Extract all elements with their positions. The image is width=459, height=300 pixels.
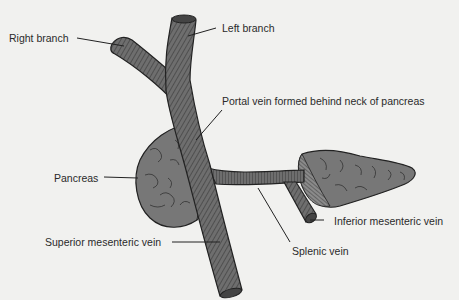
portal-vein-diagram: Right branch Left branch Portal vein for… [0,0,459,300]
label-right-branch: Right branch [9,32,69,44]
label-splenic-vein: Splenic vein [292,245,349,257]
label-inferior-mesenteric-vein: Inferior mesenteric vein [334,215,443,227]
label-pancreas: Pancreas [54,172,98,184]
label-portal-vein: Portal vein formed behind neck of pancre… [222,95,425,107]
label-left-branch: Left branch [222,22,275,34]
anatomy-illustration [0,0,459,300]
label-superior-mesenteric-vein: Superior mesenteric vein [45,236,161,248]
pancreas-tail [298,150,415,207]
